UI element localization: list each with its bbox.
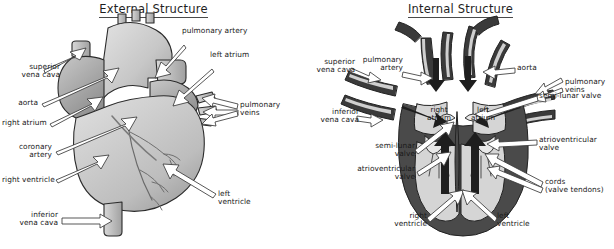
panel-external-structure: External Structure (0, 0, 307, 249)
label-semi-lunar-valve-right-internal: semi-lunar valve (539, 92, 601, 100)
label-aorta-external: aorta (2, 99, 38, 107)
label-inferior-vena-cava-internal: inferior vena cava (309, 108, 359, 125)
panel-internal-structure: Internal Structure (307, 0, 614, 249)
label-pulmonary-artery-internal: pulmonary artery (351, 56, 403, 73)
label-right-atrium-external: right atrium (2, 119, 46, 127)
label-right-ventricle-external: right ventricle (2, 176, 52, 184)
label-inferior-vena-cava-external: inferior vena cava (2, 211, 58, 228)
label-cords-internal: cords (valve tendons) (545, 178, 604, 195)
label-right-ventricle-internal: right ventricle (385, 212, 427, 229)
label-right-atrium-internal: right atrium (421, 106, 457, 122)
label-left-ventricle-external: left ventricle (218, 190, 251, 207)
label-pulmonary-artery-external: pulmonary artery (182, 27, 247, 35)
label-semi-lunar-valve-left-internal: semi-lunar valve (351, 142, 415, 159)
heart-diagram-figure: External Structure (0, 0, 614, 249)
label-left-atrium-external: left atrium (210, 51, 249, 59)
label-superior-vena-cava-external: superior vena cava (2, 63, 60, 80)
label-pulmonary-veins-external: pulmonary veins (240, 101, 280, 118)
label-left-atrium-internal: left atrium (465, 106, 501, 122)
label-atrioventricular-valve-right-internal: atrioventricular valve (539, 136, 597, 153)
label-superior-vena-cava-internal: superior vena cava (309, 58, 355, 75)
label-aorta-internal: aorta (517, 64, 537, 72)
label-atrioventricular-valve-left-internal: atrioventricular valve (333, 165, 415, 182)
label-coronary-artery-external: coronary artery (2, 143, 52, 160)
label-left-ventricle-internal: left ventricle (497, 212, 530, 229)
